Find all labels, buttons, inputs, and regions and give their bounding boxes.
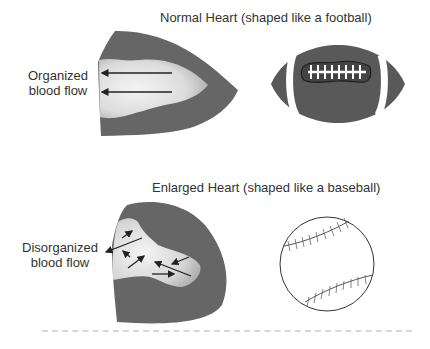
enlarged-heart-icon <box>106 202 227 324</box>
football-icon <box>271 45 405 123</box>
baseball-icon <box>280 217 374 311</box>
diagram-canvas <box>0 0 430 349</box>
faded-caption-line <box>42 330 412 334</box>
normal-heart-icon <box>98 31 238 136</box>
